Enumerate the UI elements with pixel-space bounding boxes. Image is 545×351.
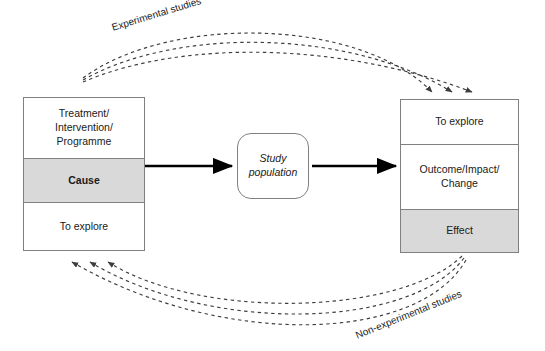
effect-box-cell-effect: Effect [401,209,518,252]
cause-box: Treatment/ Intervention/ Programme Cause… [23,97,145,251]
cause-box-cell-cause: Cause [24,158,144,202]
experimental-curve-1 [83,33,432,92]
effect-box-cell-outcome: Outcome/Impact/ Change [401,144,518,209]
diagram-canvas: Treatment/ Intervention/ Programme Cause… [0,0,545,351]
study-population-label: Study population [249,152,297,179]
cause-box-cell-to-explore-label: To explore [60,220,108,234]
cause-box-cell-cause-label: Cause [68,174,100,188]
study-population-node: Study population [237,133,309,199]
non-experimental-curve-1 [108,256,462,303]
cause-box-cell-treatment-label: Treatment/ Intervention/ Programme [55,107,113,149]
effect-box: To explore Outcome/Impact/ Change Effect [400,99,519,253]
effect-box-cell-to-explore-label: To explore [435,115,483,129]
experimental-studies-curves [83,33,472,92]
cause-box-cell-to-explore: To explore [24,202,144,250]
effect-box-cell-to-explore: To explore [401,100,518,144]
effect-box-cell-effect-label: Effect [446,224,473,238]
cause-box-cell-treatment: Treatment/ Intervention/ Programme [24,98,144,158]
effect-box-cell-outcome-label: Outcome/Impact/ Change [420,163,500,191]
